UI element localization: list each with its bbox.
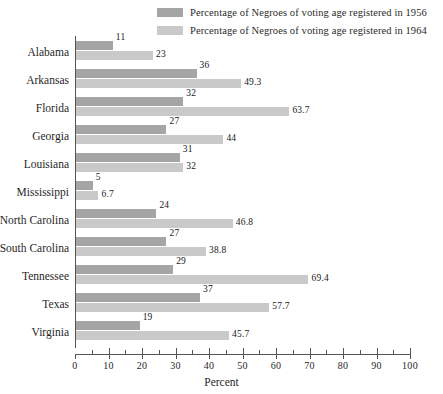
category-label: Mississippi (0, 178, 69, 206)
bar-group: Tennessee2969.4 (0, 262, 443, 290)
plot-area: Alabama1123Arkansas3649.3Florida3263.7Ge… (0, 36, 443, 354)
bar (76, 163, 183, 172)
bar-value-label: 45.7 (232, 329, 249, 339)
bar-group: South Carolina2738.8 (0, 234, 443, 262)
bar-value-label: 24 (159, 200, 169, 210)
category-label: Arkansas (0, 66, 69, 94)
chart-legend: Percentage of Negroes of voting age regi… (157, 4, 443, 40)
bar-value-label: 69.4 (311, 273, 328, 283)
x-tick-label: 70 (304, 360, 315, 371)
category-label: Tennessee (0, 262, 69, 290)
x-tick (75, 354, 76, 359)
x-tick (377, 354, 378, 359)
bar-value-label: 27 (169, 228, 179, 238)
x-tick (243, 354, 244, 359)
x-tick (176, 354, 177, 359)
bar-group: Mississippi56.7 (0, 178, 443, 206)
x-minor-tick (293, 350, 294, 354)
bar-group: Louisiana3132 (0, 150, 443, 178)
x-tick (410, 354, 411, 359)
bar-value-label: 32 (186, 88, 196, 98)
bar (76, 125, 166, 134)
bar (76, 237, 166, 246)
bar-group: Texas3757.7 (0, 290, 443, 318)
legend-item: Percentage of Negroes of voting age regi… (157, 4, 443, 20)
x-minor-tick (393, 350, 394, 354)
x-tick-label: 10 (103, 360, 114, 371)
bar (76, 275, 308, 284)
x-minor-tick (159, 350, 160, 354)
x-tick-label: 100 (402, 360, 418, 371)
bar (76, 219, 233, 228)
x-major-tick-up (377, 348, 378, 354)
bar-chart: Percentage of Negroes of voting age regi… (0, 0, 443, 394)
x-tick (209, 354, 210, 359)
x-major-tick-up (276, 348, 277, 354)
category-label: Georgia (0, 122, 69, 150)
bar-value-label: 63.7 (292, 105, 309, 115)
x-minor-tick (226, 350, 227, 354)
x-tick (142, 354, 143, 359)
category-label: South Carolina (0, 234, 69, 262)
x-minor-tick (92, 350, 93, 354)
bar (76, 321, 140, 330)
x-minor-tick (259, 350, 260, 354)
x-major-tick-up (142, 348, 143, 354)
x-minor-tick (326, 350, 327, 354)
bar (76, 303, 269, 312)
legend-swatch-icon (157, 26, 183, 35)
bar-group: Arkansas3649.3 (0, 66, 443, 94)
bar-value-label: 38.8 (209, 245, 226, 255)
bar-value-label: 37 (203, 284, 213, 294)
bar (76, 79, 241, 88)
x-tick-label: 0 (72, 360, 77, 371)
bar (76, 51, 153, 60)
category-label: Louisiana (0, 150, 69, 178)
bar (76, 191, 98, 200)
bar-value-label: 57.7 (272, 301, 289, 311)
category-label: North Carolina (0, 206, 69, 234)
bar-value-label: 27 (169, 116, 179, 126)
x-tick (109, 354, 110, 359)
bar-value-label: 32 (186, 161, 196, 171)
legend-swatch-icon (157, 8, 183, 17)
category-label: Virginia (0, 318, 69, 346)
bar-value-label: 23 (156, 49, 166, 59)
x-major-tick-up (243, 348, 244, 354)
bar (76, 209, 156, 218)
bar-group: Georgia2744 (0, 122, 443, 150)
x-minor-tick (360, 350, 361, 354)
x-tick-label: 80 (338, 360, 349, 371)
x-major-tick-up (209, 348, 210, 354)
bar-group: Alabama1123 (0, 38, 443, 66)
bar-value-label: 5 (96, 172, 101, 182)
x-major-tick-up (343, 348, 344, 354)
bar-value-label: 6.7 (101, 189, 113, 199)
bar (76, 107, 289, 116)
x-major-tick-up (176, 348, 177, 354)
bar-value-label: 19 (143, 312, 153, 322)
bar (76, 331, 229, 340)
bar (76, 135, 223, 144)
x-major-tick-up (310, 348, 311, 354)
bar (76, 41, 113, 50)
bar-value-label: 36 (200, 60, 210, 70)
x-tick-label: 40 (204, 360, 215, 371)
bar-value-label: 44 (226, 133, 236, 143)
bar-group: Virginia1945.7 (0, 318, 443, 346)
bar-value-label: 11 (116, 32, 126, 42)
bar (76, 181, 93, 190)
bar (76, 265, 173, 274)
x-tick-label: 20 (137, 360, 148, 371)
x-tick-label: 30 (170, 360, 181, 371)
bar (76, 69, 197, 78)
category-label: Alabama (0, 38, 69, 66)
x-tick-label: 60 (271, 360, 282, 371)
category-label: Texas (0, 290, 69, 318)
x-tick (310, 354, 311, 359)
x-axis-label: Percent (0, 376, 443, 388)
bar-group: Florida3263.7 (0, 94, 443, 122)
bar-value-label: 31 (183, 144, 193, 154)
category-label: Florida (0, 94, 69, 122)
bar (76, 153, 180, 162)
